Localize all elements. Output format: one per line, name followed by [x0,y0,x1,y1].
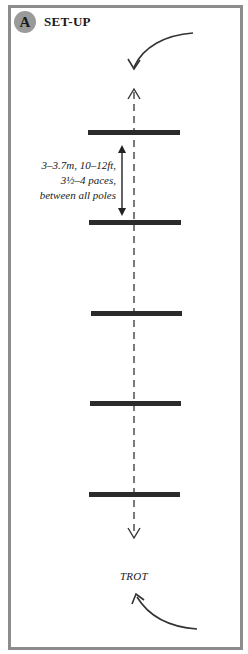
pole [89,492,180,497]
distance-metric: 3–3.7m, 10–12ft, [20,158,116,173]
distance-paces: 3½–4 paces, [20,173,116,188]
pole [91,311,182,316]
approach-arrow-icon [128,33,193,69]
pole-distance-label: 3–3.7m, 10–12ft, 3½–4 paces, between all… [20,158,116,203]
distance-note: between all poles [20,188,116,203]
distance-arrow-icon [118,145,126,216]
pole [90,401,181,406]
pole-layout-diagram [0,0,248,654]
exit-arrow-icon [132,594,197,629]
pole [88,130,180,135]
gait-label: TROT [104,570,164,582]
pole [89,220,181,225]
